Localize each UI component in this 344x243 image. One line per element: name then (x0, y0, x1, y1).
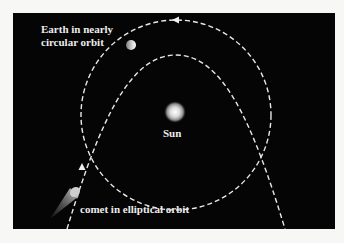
earth-label-line-1: Earth in nearly (41, 23, 113, 36)
earth-label-line-2: circular orbit (41, 36, 113, 49)
sun-icon (164, 101, 186, 123)
earth-icon (126, 40, 136, 50)
orbit-diagram: Earth in nearly circular orbit Sun comet… (13, 13, 335, 229)
comet-label: comet in elliptical orbit (80, 203, 189, 216)
comet-icon (50, 185, 82, 219)
earth-direction-arrow-icon (172, 17, 179, 24)
comet-direction-arrow-icon (79, 163, 86, 170)
sun-label: Sun (163, 127, 181, 140)
earth-label: Earth in nearly circular orbit (41, 23, 113, 49)
